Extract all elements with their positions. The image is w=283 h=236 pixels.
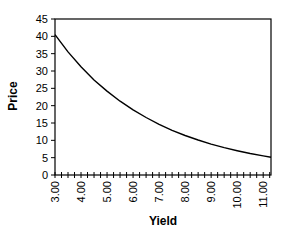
bond-price-yield-chart: 051015202530354045 3.004.005.006.007.008… <box>0 0 283 236</box>
y-axis-title: Price <box>6 81 20 111</box>
y-axis: 051015202530354045 <box>36 13 55 181</box>
y-tick-label: 0 <box>42 169 48 181</box>
y-tick-label: 20 <box>36 100 48 112</box>
y-tick-label: 30 <box>36 65 48 77</box>
y-tick-label: 5 <box>42 152 48 164</box>
series-layer <box>55 35 271 158</box>
y-tick-label: 45 <box>36 13 48 25</box>
x-axis-title: Yield <box>149 214 177 228</box>
x-tick-label: 4.00 <box>75 181 87 202</box>
price-yield-curve <box>55 35 271 158</box>
x-tick-label: 9.00 <box>205 181 217 202</box>
y-tick-label: 25 <box>36 82 48 94</box>
x-tick-label: 5.00 <box>101 181 113 202</box>
x-tick-label: 3.00 <box>49 181 61 202</box>
x-tick-label: 8.00 <box>179 181 191 202</box>
x-tick-label: 10.00 <box>231 181 243 209</box>
x-tick-label: 6.00 <box>127 181 139 202</box>
x-tick-label: 7.00 <box>153 181 165 202</box>
x-tick-label: 11.00 <box>257 181 269 208</box>
x-axis: 3.004.005.006.007.008.009.0010.0011.00 <box>49 172 270 209</box>
y-tick-label: 10 <box>36 134 48 146</box>
y-tick-label: 15 <box>36 117 48 129</box>
y-tick-label: 35 <box>36 48 48 60</box>
y-tick-label: 40 <box>36 30 48 42</box>
